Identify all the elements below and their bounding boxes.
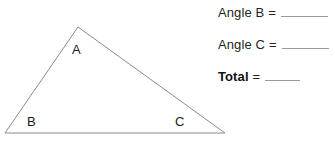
answer-row-angle-b: Angle B = <box>218 4 328 21</box>
equals-sign-angle-b: = <box>268 4 276 21</box>
answer-row-total: Total = <box>218 68 300 85</box>
equals-sign-total: = <box>253 68 261 85</box>
triangle-figure: A B C <box>0 0 232 143</box>
triangle-outline <box>5 27 225 133</box>
answer-blank-angle-c[interactable] <box>282 37 329 49</box>
equals-sign-angle-c: = <box>269 36 277 53</box>
answer-label-total: Total <box>218 68 249 85</box>
answer-blank-total[interactable] <box>265 69 300 81</box>
answers-panel: Angle B = Angle C = Total = <box>218 0 335 143</box>
answer-row-angle-c: Angle C = <box>218 36 329 53</box>
geometry-worksheet: A B C Angle B = Angle C = Total = <box>0 0 335 143</box>
vertex-label-b: B <box>27 115 36 128</box>
vertex-label-c: C <box>175 115 184 128</box>
vertex-label-a: A <box>72 43 81 56</box>
answer-blank-angle-b[interactable] <box>281 5 328 17</box>
answer-label-angle-c: Angle C <box>218 36 265 53</box>
answer-label-angle-b: Angle B <box>218 4 264 21</box>
